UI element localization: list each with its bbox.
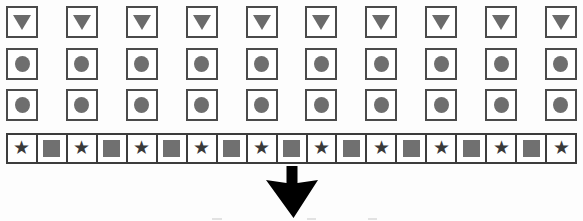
star-icon: ★ — [133, 138, 150, 157]
down-triangle-icon — [312, 15, 330, 30]
symbol-cell — [485, 89, 517, 121]
symbol-cell — [425, 89, 457, 121]
symbol-cell — [6, 6, 38, 38]
figure-canvas: ★ ★ ★ ★ ★ ★ ★ ★ ★ ★ — [0, 0, 583, 221]
star-icon: ★ — [493, 138, 510, 157]
symbol-cell — [425, 48, 457, 80]
symbol-cell — [365, 48, 397, 80]
filled-square-icon — [343, 140, 360, 157]
down-triangle-icon — [133, 15, 151, 30]
symbol-cell — [66, 48, 98, 80]
filled-circle-icon — [15, 56, 30, 72]
strip-cell: ★ — [547, 135, 575, 162]
strip-cell — [517, 135, 547, 162]
filled-square-icon — [223, 140, 240, 157]
symbol-cell — [485, 48, 517, 80]
filled-circle-icon — [434, 56, 449, 72]
filled-circle-icon — [553, 97, 568, 113]
down-triangle-icon — [193, 15, 211, 30]
star-icon: ★ — [373, 138, 390, 157]
down-triangle-icon — [253, 15, 271, 30]
filled-square-icon — [283, 140, 300, 157]
down-triangle-icon — [432, 15, 450, 30]
filled-circle-icon — [374, 97, 389, 113]
filled-circle-icon — [434, 97, 449, 113]
row-star-square-strip: ★ ★ ★ ★ ★ ★ ★ ★ ★ ★ — [6, 133, 577, 164]
star-icon: ★ — [13, 138, 30, 157]
symbol-cell — [545, 89, 577, 121]
filled-square-icon — [403, 140, 420, 157]
symbol-cell — [6, 89, 38, 121]
scan-artifact — [212, 218, 222, 220]
symbol-cell — [305, 6, 337, 38]
strip-cell: ★ — [188, 135, 218, 162]
symbol-cell — [246, 6, 278, 38]
filled-circle-icon — [15, 97, 30, 113]
down-triangle-icon — [73, 15, 91, 30]
symbol-cell — [186, 89, 218, 121]
down-triangle-icon — [492, 15, 510, 30]
strip-cell: ★ — [68, 135, 98, 162]
strip-cell: ★ — [128, 135, 158, 162]
filled-circle-icon — [314, 97, 329, 113]
row-triangles — [6, 6, 577, 38]
star-icon: ★ — [253, 138, 270, 157]
strip-cell — [278, 135, 308, 162]
filled-circle-icon — [194, 97, 209, 113]
filled-circle-icon — [494, 56, 509, 72]
filled-circle-icon — [134, 56, 149, 72]
filled-circle-icon — [134, 97, 149, 113]
filled-circle-icon — [74, 56, 89, 72]
symbol-cell — [365, 89, 397, 121]
symbol-cell — [246, 48, 278, 80]
filled-circle-icon — [194, 56, 209, 72]
filled-circle-icon — [314, 56, 329, 72]
scan-artifact — [368, 218, 377, 220]
symbol-cell — [305, 48, 337, 80]
filled-square-icon — [163, 140, 180, 157]
down-arrow-icon — [264, 166, 320, 218]
arrow-container — [0, 166, 583, 218]
symbol-cell — [66, 6, 98, 38]
strip-cell: ★ — [427, 135, 457, 162]
star-icon: ★ — [73, 138, 90, 157]
strip-cell — [337, 135, 367, 162]
down-triangle-icon — [13, 15, 31, 30]
filled-circle-icon — [553, 56, 568, 72]
symbol-cell — [126, 89, 158, 121]
filled-circle-icon — [254, 97, 269, 113]
scan-artifact — [307, 218, 316, 220]
strip-cell: ★ — [8, 135, 38, 162]
filled-circle-icon — [374, 56, 389, 72]
strip-cell: ★ — [487, 135, 517, 162]
filled-square-icon — [523, 140, 540, 157]
symbol-cell — [186, 6, 218, 38]
star-icon: ★ — [553, 138, 570, 157]
symbol-cell — [6, 48, 38, 80]
filled-square-icon — [463, 140, 480, 157]
strip-cell — [457, 135, 487, 162]
strip-cell: ★ — [248, 135, 278, 162]
strip-cell — [158, 135, 188, 162]
filled-circle-icon — [254, 56, 269, 72]
down-triangle-icon — [372, 15, 390, 30]
symbol-cell — [485, 6, 517, 38]
strip-cell — [98, 135, 128, 162]
strip-cell: ★ — [367, 135, 397, 162]
row-circles-lower — [6, 89, 577, 121]
filled-circle-icon — [494, 97, 509, 113]
symbol-cell — [126, 48, 158, 80]
down-triangle-icon — [552, 15, 570, 30]
star-icon: ★ — [193, 138, 210, 157]
star-icon: ★ — [313, 138, 330, 157]
filled-circle-icon — [74, 97, 89, 113]
star-icon: ★ — [433, 138, 450, 157]
symbol-cell — [365, 6, 397, 38]
symbol-cell — [66, 89, 98, 121]
filled-square-icon — [43, 140, 60, 157]
symbol-cell — [545, 6, 577, 38]
row-circles-upper — [6, 48, 577, 80]
symbol-cell — [545, 48, 577, 80]
symbol-cell — [126, 6, 158, 38]
symbol-cell — [186, 48, 218, 80]
